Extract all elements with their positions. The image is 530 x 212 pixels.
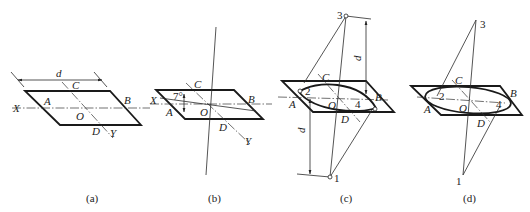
extension-line-upper xyxy=(346,16,371,19)
label-d-point: D xyxy=(91,125,100,137)
label-y: Y xyxy=(245,135,253,147)
label-o: O xyxy=(459,102,467,114)
label-y: Y xyxy=(110,127,118,139)
label-2: 2 xyxy=(305,85,311,97)
label-angle: 7° xyxy=(173,90,183,102)
axis-y-line xyxy=(186,83,250,144)
point-2 xyxy=(298,89,302,93)
caption-b: (b) xyxy=(208,192,221,205)
label-a: A xyxy=(165,106,173,118)
label-d-lower: d xyxy=(295,127,307,133)
label-c: C xyxy=(455,74,463,86)
label-o: O xyxy=(76,110,84,122)
extension-line-lower xyxy=(297,174,330,177)
label-4: 4 xyxy=(355,98,361,110)
panel-d: 3 1 2 4 A C B O D (d) xyxy=(411,18,522,205)
label-a: A xyxy=(423,103,431,115)
panel-b: 7° X A C B O D Y (b) xyxy=(149,27,272,205)
construction-line-1-4 xyxy=(330,110,372,177)
label-o: O xyxy=(200,106,208,118)
construction-line-3-1 xyxy=(330,16,346,177)
label-o: O xyxy=(328,99,336,111)
label-b: B xyxy=(248,93,255,105)
label-4: 4 xyxy=(496,98,502,110)
label-1: 1 xyxy=(456,175,462,187)
label-d: d xyxy=(56,67,62,79)
label-d-point: D xyxy=(340,113,349,125)
label-2: 2 xyxy=(439,90,445,102)
label-a: A xyxy=(288,98,296,110)
caption-c: (c) xyxy=(340,192,353,205)
label-b: B xyxy=(124,94,131,106)
ellipse-construction-diagram: d X A C B O D Y (a) 7° X A C B O D Y (b) xyxy=(0,0,530,212)
caption-a: (a) xyxy=(86,192,99,205)
label-d-point: D xyxy=(218,121,227,133)
point-4 xyxy=(373,107,377,111)
label-c: C xyxy=(322,71,330,83)
label-b: B xyxy=(375,91,382,103)
label-c: C xyxy=(194,78,202,90)
extension-line xyxy=(94,72,107,87)
label-d-point: D xyxy=(476,117,485,129)
panel-c: d d 3 1 2 4 A C B O D (c) xyxy=(278,9,394,205)
label-x: X xyxy=(149,94,158,106)
point-3 xyxy=(344,14,348,18)
construction-line-3-1 xyxy=(463,20,476,175)
label-b: B xyxy=(510,87,517,99)
label-3: 3 xyxy=(480,18,486,30)
vertical-axis xyxy=(206,27,216,175)
caption-d: (d) xyxy=(463,192,476,205)
label-a: A xyxy=(43,95,51,107)
extension-line xyxy=(11,72,24,87)
label-1: 1 xyxy=(334,172,340,184)
point-1 xyxy=(328,175,332,179)
label-3: 3 xyxy=(337,9,343,21)
label-x: X xyxy=(12,102,21,114)
label-c: C xyxy=(72,79,80,91)
panel-a: d X A C B O D Y (a) xyxy=(11,67,150,205)
label-d-upper: d xyxy=(351,55,363,61)
